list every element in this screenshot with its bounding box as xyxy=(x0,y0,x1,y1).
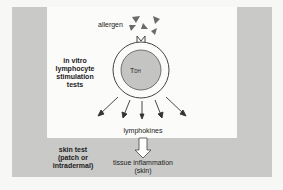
allergen-particles xyxy=(129,16,160,35)
outcome-label: tissue inflammation(skin) xyxy=(110,159,176,175)
allergen-label: allergen xyxy=(98,21,123,29)
skin-test-label: skin test(patch orintradermal) xyxy=(52,146,94,170)
cell-label: TDH xyxy=(130,67,141,76)
receptor-icon xyxy=(137,36,145,42)
hollow-down-arrow-icon xyxy=(135,138,151,158)
lymphokine-arrows xyxy=(98,97,186,119)
cell-nucleus xyxy=(121,50,161,90)
in-vitro-label: in vitrolymphocytestimulationtests xyxy=(55,57,95,89)
lymphokines-label: lymphokines xyxy=(118,127,168,135)
